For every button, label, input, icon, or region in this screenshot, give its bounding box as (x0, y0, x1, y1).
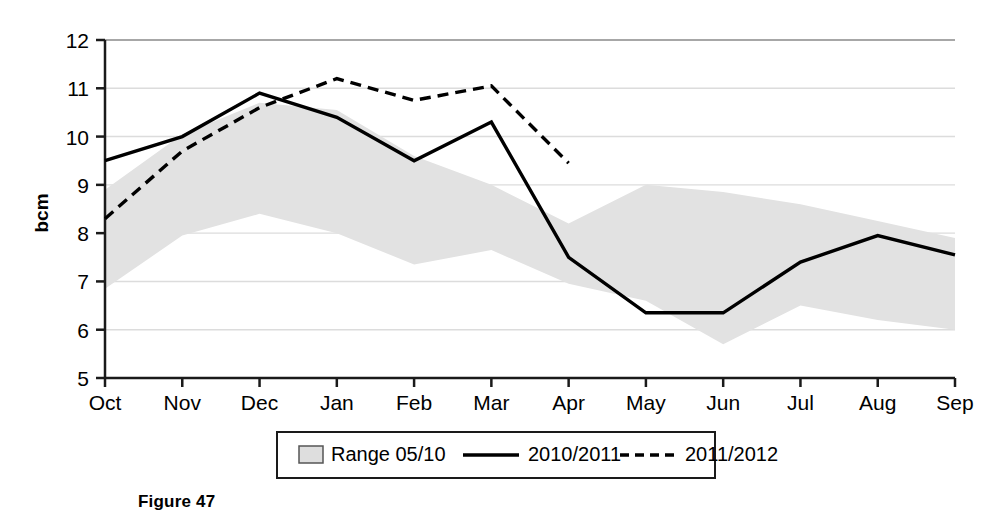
x-tick-label-jul: Jul (787, 391, 814, 414)
y-tick-label-5: 5 (77, 367, 89, 390)
y-axis-ticks (96, 40, 105, 378)
x-tick-label-aug: Aug (859, 391, 896, 414)
line-chart: 56789101112 OctNovDecJanFebMarAprMayJunJ… (0, 0, 989, 525)
x-axis-tick-labels: OctNovDecJanFebMarAprMayJunJulAugSep (89, 391, 974, 414)
x-tick-label-mar: Mar (473, 391, 509, 414)
y-tick-label-12: 12 (66, 29, 89, 52)
chart-legend: Range 05/10 2010/2011 2011/2012 (277, 432, 778, 478)
x-tick-label-apr: Apr (552, 391, 585, 414)
y-tick-label-8: 8 (77, 222, 89, 245)
range-05-10-band (105, 103, 955, 344)
x-tick-label-dec: Dec (241, 391, 278, 414)
x-tick-label-jun: Jun (706, 391, 740, 414)
x-tick-label-may: May (626, 391, 666, 414)
x-tick-label-feb: Feb (396, 391, 432, 414)
x-tick-label-jan: Jan (320, 391, 354, 414)
legend-label-2011-2012: 2011/2012 (685, 443, 778, 465)
x-tick-label-nov: Nov (164, 391, 202, 414)
y-axis-tick-labels: 56789101112 (66, 29, 89, 390)
y-tick-label-11: 11 (67, 77, 89, 100)
x-tick-label-oct: Oct (89, 391, 122, 414)
y-tick-label-6: 6 (77, 319, 89, 342)
legend-label-range-05-10: Range 05/10 (331, 443, 446, 465)
y-axis-title: bcm (31, 193, 52, 232)
legend-item-range-05-10: Range 05/10 (299, 443, 446, 465)
x-tick-label-sep: Sep (936, 391, 973, 414)
figure-caption: Figure 47 (138, 492, 215, 512)
legend-label-2010-2011: 2010/2011 (528, 443, 621, 465)
y-tick-label-10: 10 (66, 126, 89, 149)
x-axis-ticks (105, 378, 955, 387)
range-band-series (105, 103, 955, 344)
figure-47-container: 56789101112 OctNovDecJanFebMarAprMayJunJ… (0, 0, 989, 525)
range-swatch-icon (299, 446, 323, 463)
y-tick-label-7: 7 (77, 270, 89, 293)
y-tick-label-9: 9 (77, 174, 89, 197)
